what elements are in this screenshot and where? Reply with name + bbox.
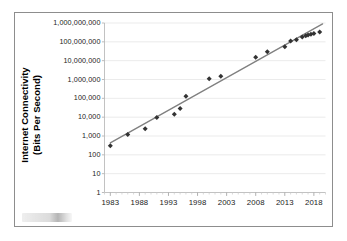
plot-drawing-layer (0, 0, 347, 241)
data-series (108, 30, 322, 149)
corner-watermark (22, 213, 72, 222)
data-point-marker (207, 76, 212, 81)
data-point-marker (178, 106, 183, 111)
data-point-marker (253, 55, 258, 60)
data-point-marker (218, 74, 223, 79)
chart-figure: Internet Connectivity (Bits Per Second) … (0, 0, 347, 241)
data-point-marker (172, 112, 177, 117)
data-point-marker (282, 44, 287, 49)
data-point-marker (108, 143, 113, 148)
data-point-marker (317, 30, 322, 35)
data-point-marker (143, 126, 148, 131)
